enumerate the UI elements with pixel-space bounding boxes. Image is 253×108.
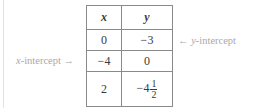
header-x: x bbox=[87, 6, 122, 30]
fraction-denominator: 2 bbox=[151, 90, 156, 100]
cell-x: −4 bbox=[87, 51, 122, 72]
cell-y: 0 bbox=[122, 51, 173, 72]
fraction-numerator: 1 bbox=[150, 79, 157, 90]
y-intercept-label: ← y-intercept bbox=[178, 35, 236, 46]
fraction-whole: −4 bbox=[137, 81, 150, 95]
x-intercept-label: x-intercept → bbox=[16, 55, 74, 66]
cell-x: 0 bbox=[87, 30, 122, 51]
xy-value-table: x y 0 −3 −4 0 2 −412 bbox=[86, 5, 173, 107]
table-row: 0 −3 bbox=[87, 30, 173, 51]
left-arrow-icon: ← bbox=[178, 35, 189, 46]
header-row: x y bbox=[87, 6, 173, 30]
fraction: 12 bbox=[150, 79, 157, 100]
right-arrow-icon: → bbox=[64, 55, 75, 66]
y-intercept-text: -intercept bbox=[196, 35, 236, 46]
table-row: 2 −412 bbox=[87, 72, 173, 107]
header-y: y bbox=[122, 6, 173, 30]
cell-x: 2 bbox=[87, 72, 122, 107]
left-margin-rule bbox=[3, 0, 4, 108]
cell-y: −3 bbox=[122, 30, 173, 51]
cell-y-mixed-fraction: −412 bbox=[122, 72, 173, 107]
x-intercept-text: -intercept bbox=[21, 55, 61, 66]
table-row: −4 0 bbox=[87, 51, 173, 72]
